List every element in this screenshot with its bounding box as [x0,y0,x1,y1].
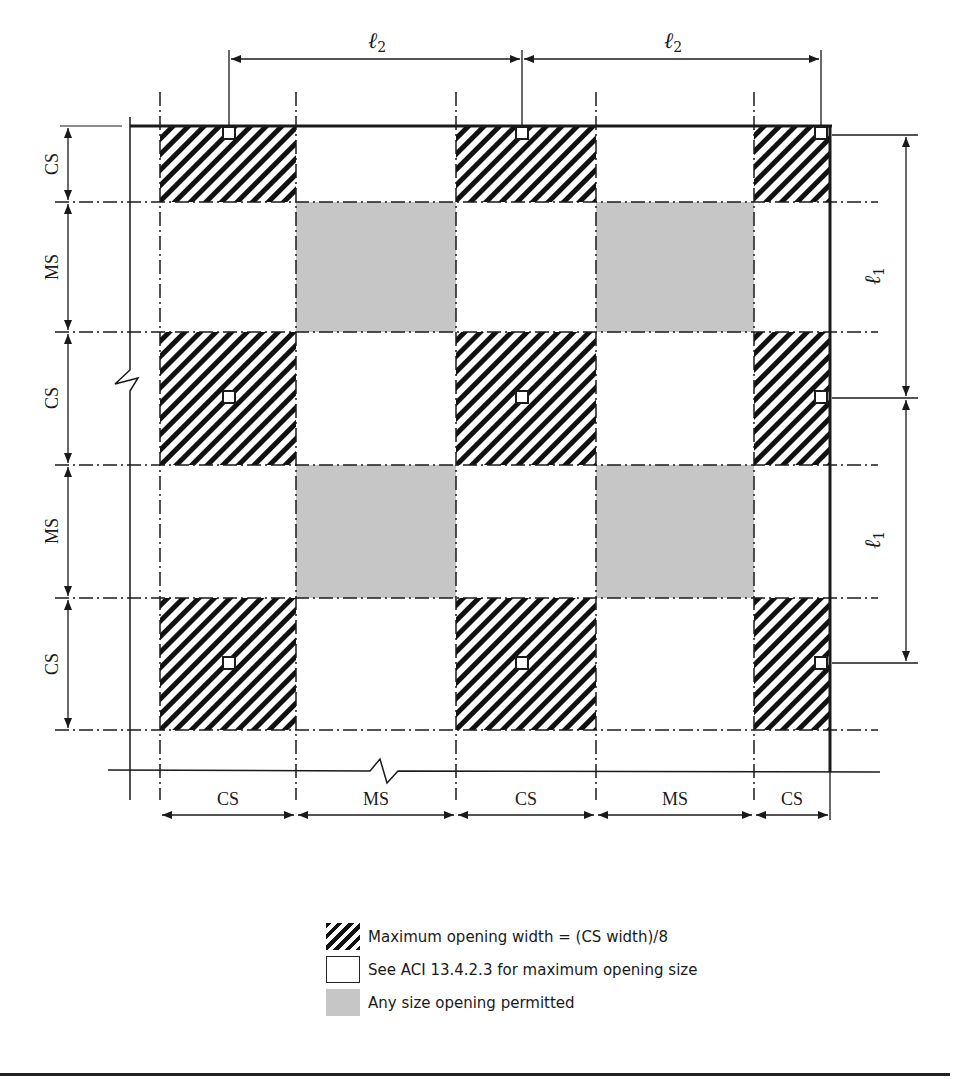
gray-zone [296,202,456,332]
column-icon [516,657,528,669]
legend-text: See ACI 13.4.2.3 for maximum opening siz… [368,961,697,979]
legend-text: Maximum opening width = (CS width)/8 [368,928,668,946]
bottom-strip-label-cs: CS [781,789,803,809]
column-icon [516,127,528,139]
legend-text: Any size opening permitted [368,994,575,1012]
gray-zone [596,202,754,332]
dimension-label-l1: ℓ1 [860,531,887,549]
left-strip-label-cs: CS [42,387,62,409]
column-icon [516,391,528,403]
zone-layer [160,126,830,730]
left-strip-label-cs: CS [42,153,62,175]
column-icon [223,391,235,403]
column-icon [223,127,235,139]
legend: Maximum opening width = (CS width)/8 See… [326,920,697,1019]
caption-cutoff [0,1078,961,1083]
bottom-strip-label-cs: CS [217,789,239,809]
bottom-strip-label-cs: CS [515,789,537,809]
column-icon [815,391,827,403]
left-strip-label-cs: CS [42,653,62,675]
gray-swatch-icon [326,989,360,1016]
dimension-label-l2: ℓ2 [368,28,386,55]
bottom-strip-label-ms: MS [363,789,389,809]
caption-divider [0,1073,950,1076]
column-icon [223,657,235,669]
dimension-label-l1: ℓ1 [860,267,887,285]
gray-zone [596,465,754,598]
hatch-swatch-icon [326,923,360,950]
empty-swatch-icon [326,956,360,983]
left-strip-label-ms: MS [42,254,62,280]
legend-item-empty: See ACI 13.4.2.3 for maximum opening siz… [326,953,697,986]
left-strip-label-ms: MS [42,518,62,544]
gray-zone [296,465,456,598]
column-icon [815,657,827,669]
top-dimension-l2 [229,50,821,133]
right-dimension-l1 [832,135,918,663]
legend-item-gray: Any size opening permitted [326,986,697,1019]
bottom-strip-dimensions [162,772,830,820]
dimension-label-l2: ℓ2 [664,28,682,55]
column-icon [815,127,827,139]
bottom-strip-label-ms: MS [662,789,688,809]
legend-item-hatched: Maximum opening width = (CS width)/8 [326,920,697,953]
